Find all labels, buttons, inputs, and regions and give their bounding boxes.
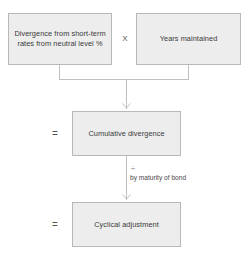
node-years-label: Years maintained [160,34,218,44]
operator-divide: ÷ [126,165,140,173]
node-cumulative-label: Cumulative divergence [88,129,164,139]
node-cyclical-label: Cyclical adjustment [94,220,159,230]
node-divergence-label: Divergence from short-term rates from ne… [13,29,107,49]
connector-stub-left [59,65,60,79]
flowchart-canvas: Divergence from short-term rates from ne… [0,0,251,259]
connector-join-bar [59,79,189,80]
node-cumulative-divergence[interactable]: Cumulative divergence [72,111,181,156]
connector-stub-right [188,65,189,79]
arrowhead-down-icon [122,194,131,200]
annotation-by-maturity-of-bond: by maturity of bond [130,174,186,182]
operator-multiply: X [119,35,131,43]
node-cyclical-adjustment[interactable]: Cyclical adjustment [72,202,181,247]
arrowhead-down-icon [122,103,131,109]
operator-equals-middle: = [49,129,61,139]
node-years-maintained[interactable]: Years maintained [136,13,241,65]
operator-equals-bottom: = [49,220,61,230]
node-divergence-from-neutral[interactable]: Divergence from short-term rates from ne… [8,13,112,65]
